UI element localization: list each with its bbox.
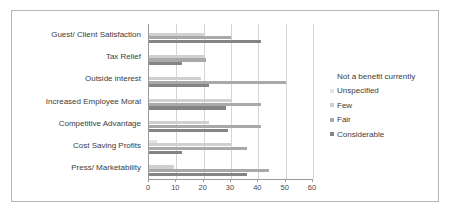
x-tick-mark bbox=[257, 179, 258, 182]
bar-group bbox=[149, 24, 312, 46]
x-tick-label: 30 bbox=[226, 183, 234, 192]
bar bbox=[149, 33, 204, 36]
bar bbox=[149, 84, 209, 87]
bar-group bbox=[149, 113, 312, 135]
x-tick-label: 20 bbox=[198, 183, 206, 192]
bar bbox=[149, 40, 261, 43]
bar-group bbox=[149, 90, 312, 112]
legend-label: Not a benefit currently bbox=[337, 72, 415, 81]
bar bbox=[149, 103, 261, 106]
bar bbox=[149, 36, 231, 39]
bar bbox=[149, 55, 204, 58]
bar bbox=[149, 151, 182, 154]
x-tick-label: 10 bbox=[171, 183, 179, 192]
bar bbox=[149, 81, 286, 84]
bar-group bbox=[149, 46, 312, 68]
legend-swatch-icon bbox=[330, 74, 334, 78]
bar bbox=[149, 129, 228, 132]
legend-item[interactable]: Fair bbox=[330, 113, 438, 128]
category-label: Cost Saving Profits bbox=[73, 141, 141, 150]
bar bbox=[149, 143, 231, 146]
bar-group bbox=[149, 157, 312, 179]
category-label: Increased Employee Moral bbox=[46, 97, 141, 106]
bar bbox=[149, 169, 269, 172]
category-label: Outside interest bbox=[85, 74, 141, 83]
legend-swatch-icon bbox=[330, 103, 334, 107]
bar bbox=[149, 125, 261, 128]
legend-item[interactable]: Considerable bbox=[330, 127, 438, 142]
category-label: Competitive Advantage bbox=[59, 119, 141, 128]
bar bbox=[149, 99, 231, 102]
legend-label: Considerable bbox=[337, 130, 384, 139]
legend-swatch-icon bbox=[330, 89, 334, 93]
bar bbox=[149, 140, 157, 143]
x-tick-mark bbox=[230, 179, 231, 182]
category-label: Guest/ Client Satisfaction bbox=[51, 30, 141, 39]
x-tick-mark bbox=[312, 179, 313, 182]
legend-swatch-icon bbox=[330, 132, 334, 136]
category-label: Press/ Marketability bbox=[71, 163, 141, 172]
chart-frame: 0102030405060 Guest/ Client Satisfaction… bbox=[11, 10, 439, 202]
x-tick-label: 60 bbox=[308, 183, 316, 192]
bar-group bbox=[149, 135, 312, 157]
x-tick-label: 40 bbox=[253, 183, 261, 192]
category-label: Tax Relief bbox=[106, 52, 141, 61]
bar bbox=[149, 62, 182, 65]
x-tick-mark bbox=[203, 179, 204, 182]
bar bbox=[149, 58, 206, 61]
legend-item[interactable]: Unspecified bbox=[330, 84, 438, 99]
bar-group bbox=[149, 68, 312, 90]
x-tick-label: 0 bbox=[146, 183, 150, 192]
x-tick-mark bbox=[148, 179, 149, 182]
bar bbox=[149, 77, 201, 80]
bar bbox=[149, 165, 174, 168]
bar bbox=[149, 121, 209, 124]
plot-area bbox=[148, 24, 312, 179]
legend-item[interactable]: Few bbox=[330, 98, 438, 113]
bar bbox=[149, 173, 247, 176]
bar bbox=[149, 147, 247, 150]
chart-legend: Not a benefit currentlyUnspecifiedFewFai… bbox=[330, 69, 438, 142]
legend-swatch-icon bbox=[330, 118, 334, 122]
bar bbox=[149, 106, 226, 109]
legend-item[interactable]: Not a benefit currently bbox=[330, 69, 438, 84]
legend-label: Fair bbox=[337, 115, 351, 124]
gridline bbox=[313, 24, 314, 179]
x-tick-mark bbox=[285, 179, 286, 182]
legend-label: Few bbox=[337, 101, 352, 110]
x-tick-label: 50 bbox=[280, 183, 288, 192]
x-tick-mark bbox=[175, 179, 176, 182]
legend-label: Unspecified bbox=[337, 86, 379, 95]
